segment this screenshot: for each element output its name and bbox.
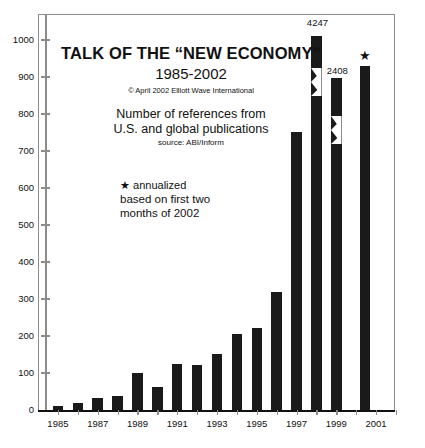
source-note: source: ABI/Inform: [46, 138, 336, 148]
description-line-1: Number of references from: [46, 107, 336, 122]
x-tick: [396, 410, 397, 415]
note-line-1: ★ annualized: [120, 178, 210, 192]
x-tick: [297, 410, 298, 415]
x-tick: [336, 410, 337, 415]
bar-1990: [152, 387, 163, 410]
bar-1997: [291, 132, 302, 410]
x-tick: [118, 410, 119, 415]
copyright-notice: © April 2002 Elliott Wave International: [46, 86, 336, 96]
bar-1989: [132, 373, 143, 410]
bar-2002: [360, 66, 371, 410]
x-tick: [177, 410, 178, 415]
x-tick-label: 1987: [87, 419, 108, 429]
description-line-2: U.S. and global publications: [46, 122, 336, 137]
note-line-2: based on first two: [120, 192, 210, 206]
chart-root: 01002003004005006007008009001000 4247240…: [0, 0, 425, 448]
x-tick-label: 1991: [167, 419, 188, 429]
x-tick: [316, 410, 317, 415]
bar-1993: [212, 354, 223, 410]
bar-1986: [73, 403, 84, 410]
x-tick-label: 1995: [246, 419, 267, 429]
bar-1988: [112, 396, 123, 410]
x-tick-label: 1985: [47, 419, 68, 429]
x-tick: [98, 410, 99, 415]
star-marker: ★: [359, 49, 371, 62]
x-tick: [78, 410, 79, 415]
x-tick: [137, 410, 138, 415]
annualized-note: ★ annualized based on first two months o…: [120, 178, 210, 220]
x-tick-label: 1989: [127, 419, 148, 429]
bar-1995: [252, 328, 263, 410]
x-tick-label: 1999: [326, 419, 347, 429]
bar-1992: [192, 365, 203, 410]
x-tick: [237, 410, 238, 415]
x-tick: [257, 410, 258, 415]
x-tick: [217, 410, 218, 415]
bar-1987: [92, 398, 103, 410]
bar-value-label-1998: 4247: [307, 18, 328, 28]
x-tick-label: 1997: [286, 419, 307, 429]
x-tick: [376, 410, 377, 415]
x-tick: [197, 410, 198, 415]
chart-subtitle: 1985-2002: [46, 65, 336, 83]
title-block: TALK OF THE “NEW ECONOMY” 1985-2002 © Ap…: [46, 44, 336, 148]
bar-1996: [271, 292, 282, 410]
bar-1991: [172, 364, 183, 410]
note-line-3: months of 2002: [120, 206, 210, 220]
x-tick: [157, 410, 158, 415]
chart-title: TALK OF THE “NEW ECONOMY”: [46, 44, 336, 63]
x-tick: [58, 410, 59, 415]
bar-1994: [232, 334, 243, 410]
x-tick: [277, 410, 278, 415]
x-tick-label: 2001: [366, 419, 387, 429]
x-tick-label: 1993: [206, 419, 227, 429]
x-tick: [356, 410, 357, 415]
